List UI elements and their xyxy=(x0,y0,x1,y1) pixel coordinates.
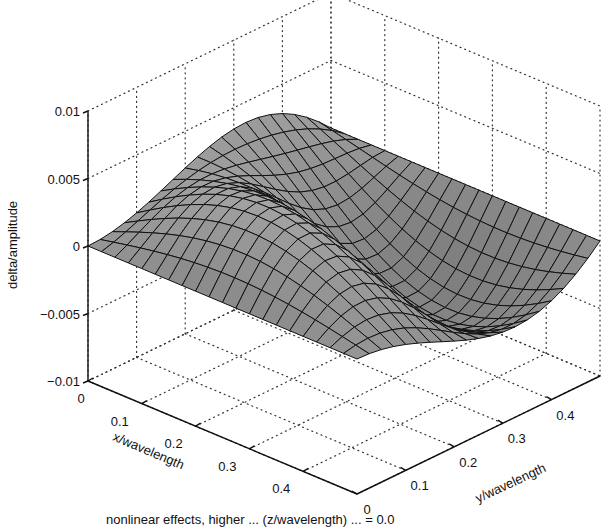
figure-caption: nonlinear effects, higher ... (z/wavelen… xyxy=(106,512,394,527)
z-tick-label: −0.01 xyxy=(47,374,80,389)
x-tick-label: 0.1 xyxy=(111,414,129,429)
surface-mesh xyxy=(88,114,600,359)
x-tick-label: 0.4 xyxy=(272,481,290,496)
x-tick-label: 0.3 xyxy=(218,459,236,474)
x-tick-label: 0 xyxy=(77,391,84,406)
z-axis-label: delta/amplitude xyxy=(5,201,20,289)
y-axis-label: y/wavelength xyxy=(473,460,548,506)
z-tick-label: 0.005 xyxy=(47,172,80,187)
y-tick-label: 0.3 xyxy=(508,431,526,446)
z-tick-label: −0.005 xyxy=(40,307,80,322)
z-tick-label: 0.01 xyxy=(55,104,80,119)
y-tick-label: 0.4 xyxy=(556,408,574,423)
y-tick-label: 0.1 xyxy=(411,478,429,493)
y-tick-label: 0.2 xyxy=(459,455,477,470)
z-tick-label: 0 xyxy=(73,239,80,254)
x-tick-label: 0.2 xyxy=(165,436,183,451)
